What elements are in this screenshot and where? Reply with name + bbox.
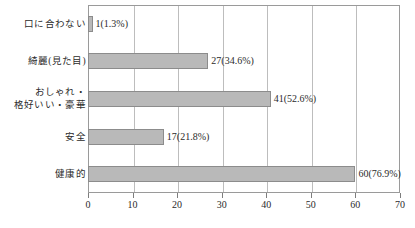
x-tick-label: 50	[306, 199, 316, 211]
x-tick-label: 10	[128, 199, 138, 211]
x-tick-label: 30	[217, 199, 227, 211]
x-tick-mark	[133, 193, 134, 198]
bar-value-3: 17(21.8%)	[164, 129, 210, 145]
x-tick-mark	[177, 193, 178, 198]
bar-1[interactable]	[88, 53, 208, 69]
category-label: 安全	[0, 118, 86, 156]
bar-value-0: 1(1.3%)	[93, 16, 129, 32]
bar-value-4: 60(76.9%)	[355, 166, 401, 182]
category-label-line: 健康的	[55, 168, 86, 180]
x-tick-label: 0	[86, 199, 91, 211]
x-tick-mark	[355, 193, 356, 198]
horizontal-bar-chart: 口に合わない 1(1.3%) 綺麗(見た目) 27(34.6%) おしゃれ・ 格…	[0, 0, 415, 228]
category-label-line: 安全	[65, 131, 86, 143]
x-tick-label: 60	[350, 199, 360, 211]
category-label-line: 口に合わない	[24, 18, 86, 30]
category-label-line: 格好いい・豪華	[14, 99, 86, 111]
x-tick-mark	[88, 193, 89, 198]
x-axis: 0 10 20 30 40 50 60 70	[0, 193, 415, 201]
category-label-line: 綺麗(見た目)	[28, 55, 86, 67]
bar-value-2: 41(52.6%)	[271, 91, 317, 107]
x-tick-label: 40	[261, 199, 271, 211]
x-tick-mark	[266, 193, 267, 198]
x-tick-label: 70	[395, 199, 405, 211]
category-label: おしゃれ・ 格好いい・豪華	[0, 80, 86, 118]
x-tick-mark	[311, 193, 312, 198]
bar-3[interactable]	[88, 129, 164, 145]
category-label-line: おしゃれ・	[35, 86, 87, 98]
bar-row[interactable]: 健康的 60(76.9%)	[0, 155, 415, 193]
bar-row[interactable]: 安全 17(21.8%)	[0, 118, 415, 156]
x-tick-mark	[400, 193, 401, 198]
category-label: 健康的	[0, 155, 86, 193]
bar-row[interactable]: 綺麗(見た目) 27(34.6%)	[0, 43, 415, 81]
bar-4[interactable]	[88, 166, 355, 182]
category-label: 綺麗(見た目)	[0, 43, 86, 81]
bar-row[interactable]: おしゃれ・ 格好いい・豪華 41(52.6%)	[0, 80, 415, 118]
x-tick-label: 20	[172, 199, 182, 211]
bar-value-1: 27(34.6%)	[208, 53, 254, 69]
bar-row[interactable]: 口に合わない 1(1.3%)	[0, 5, 415, 43]
x-tick-mark	[222, 193, 223, 198]
bar-2[interactable]	[88, 91, 271, 107]
category-label: 口に合わない	[0, 5, 86, 43]
